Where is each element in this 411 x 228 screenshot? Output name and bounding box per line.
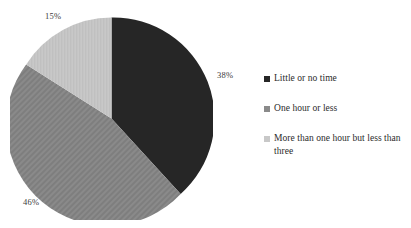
legend-label-more-than-one-hour: More than one hour but less than three <box>274 132 408 158</box>
pie-value-label-one-hour-or-less: 46% <box>23 197 39 207</box>
legend-label-little-or-no-time: Little or no time <box>274 72 337 85</box>
legend-item-one-hour-or-less[interactable]: One hour or less <box>264 102 408 115</box>
legend-swatch-icon-more-than-one-hour <box>264 136 270 142</box>
pie-value-label-more-than-one-hour: 15% <box>45 11 61 21</box>
legend-swatch-icon-one-hour-or-less <box>264 106 270 112</box>
pie-value-label-little-or-no-time: 38% <box>217 70 233 80</box>
legend-item-more-than-one-hour[interactable]: More than one hour but less than three <box>264 132 408 158</box>
pie-graphic <box>10 17 213 220</box>
legend-item-little-or-no-time[interactable]: Little or no time <box>264 72 408 85</box>
pie-svg <box>10 17 213 220</box>
pie-chart-figure: 38% 46% 15% Little or no time One hour o… <box>0 0 411 228</box>
chart-legend: Little or no time One hour or less More … <box>264 72 408 175</box>
legend-label-one-hour-or-less: One hour or less <box>274 102 337 115</box>
legend-swatch-icon-little-or-no-time <box>264 76 270 82</box>
